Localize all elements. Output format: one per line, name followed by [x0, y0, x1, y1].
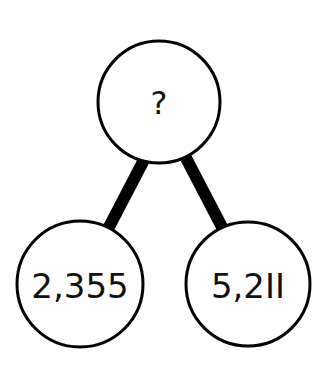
part-right-label: 5,2II — [211, 266, 285, 306]
connector-left — [109, 158, 145, 227]
number-bond-diagram: ? 2,355 5,2II — [0, 0, 318, 377]
part-left-label: 2,355 — [31, 266, 128, 306]
whole-node: ? — [98, 41, 220, 163]
whole-label: ? — [151, 84, 168, 122]
part-node-left: 2,355 — [17, 221, 143, 347]
part-node-right: 5,2II — [186, 222, 310, 346]
connector-right — [186, 158, 222, 227]
